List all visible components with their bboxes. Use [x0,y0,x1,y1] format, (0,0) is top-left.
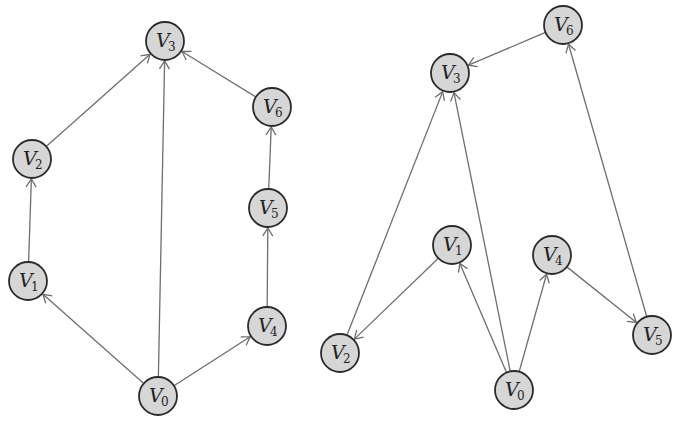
node-v2: V2 [321,334,359,372]
node-v1: V1 [9,262,47,300]
node-subscript: 5 [271,207,279,221]
edge-v0-to-v3 [158,61,169,377]
node-subscript: 3 [168,40,176,54]
node-subscript: 1 [31,280,39,294]
node-subscript: 4 [270,325,278,339]
node-v6: V6 [544,6,582,44]
edges [26,51,276,385]
node-v4: V4 [248,307,286,345]
node-subscript: 5 [655,334,663,348]
left-graph: V0V1V2V3V4V5V6 [9,22,291,415]
node-v0: V0 [495,371,533,409]
edge-v5-to-v6 [266,127,276,189]
node-subscript: 6 [566,24,574,38]
edge-v0-to-v1 [43,294,144,383]
node-subscript: 1 [455,244,463,258]
edge-v6-to-v3 [468,32,545,66]
node-v3: V3 [146,22,184,60]
right-graph: V0V1V2V3V4V5V6 [321,6,671,409]
node-subscript: 0 [517,389,525,403]
edges [347,32,647,372]
edge-v1-to-v2 [354,258,438,339]
edge-v4-to-v5 [567,267,637,323]
node-v1: V1 [433,226,471,264]
node-v3: V3 [431,54,469,92]
node-v5: V5 [249,189,287,227]
edge-v0-to-v4 [519,274,549,371]
node-subscript: 0 [161,395,169,409]
edge-v2-to-v3 [46,54,150,146]
edge-v1-to-v2 [26,179,36,262]
node-subscript: 2 [35,158,43,172]
node-v4: V4 [533,236,571,274]
node-subscript: 4 [555,254,563,268]
edge-v6-to-v3 [182,51,256,97]
node-v5: V5 [633,316,671,354]
node-v6: V6 [253,88,291,126]
edge-v4-to-v5 [263,228,273,307]
node-subscript: 3 [453,72,461,86]
diagram-canvas: V0V1V2V3V4V5V6 V0V1V2V3V4V5V6 [0,0,681,426]
node-subscript: 6 [275,106,283,120]
node-v2: V2 [13,140,51,178]
edge-v0-to-v4 [174,337,250,386]
node-subscript: 2 [343,352,351,366]
node-v0: V0 [139,377,177,415]
